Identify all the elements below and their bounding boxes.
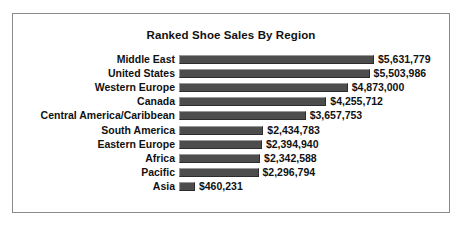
- bar-track: $5,503,986: [179, 66, 449, 80]
- bar: [179, 111, 306, 120]
- bar-chart-plot-area: Middle East$5,631,779United States$5,503…: [13, 52, 449, 202]
- chart-frame: Ranked Shoe Sales By Region Middle East$…: [12, 13, 450, 213]
- bar-category-label: Canada: [13, 96, 179, 107]
- bar-row: Central America/Caribbean$3,657,753: [13, 109, 449, 123]
- bar-category-label: Africa: [13, 153, 179, 164]
- bar-row: Canada$4,255,712: [13, 95, 449, 109]
- bar-track: $2,394,940: [179, 137, 449, 151]
- bar: [179, 126, 263, 135]
- bar: [179, 182, 195, 191]
- bar-value-label: $2,296,794: [259, 167, 316, 178]
- bar-value-label: $2,394,940: [262, 139, 319, 150]
- bar-row: Asia$460,231: [13, 180, 449, 194]
- bar-row: Pacific$2,296,794: [13, 166, 449, 180]
- bar-track: $2,434,783: [179, 123, 449, 137]
- bar-value-label: $4,873,000: [348, 82, 405, 93]
- bar-category-label: Eastern Europe: [13, 139, 179, 150]
- bar-track: $460,231: [179, 180, 449, 194]
- bar-value-label: $5,631,779: [374, 54, 431, 65]
- bar-row: South America$2,434,783: [13, 123, 449, 137]
- bar-value-label: $2,434,783: [263, 125, 320, 136]
- bar: [179, 83, 348, 92]
- bar-category-label: Pacific: [13, 167, 179, 178]
- bar: [179, 97, 326, 106]
- bar-value-label: $4,255,712: [326, 96, 383, 107]
- bar-category-label: Western Europe: [13, 82, 179, 93]
- bar-category-label: South America: [13, 125, 179, 136]
- bar-category-label: United States: [13, 68, 179, 79]
- bar: [179, 154, 260, 163]
- bar-track: $5,631,779: [179, 52, 449, 66]
- bar-row: Eastern Europe$2,394,940: [13, 137, 449, 151]
- bar: [179, 55, 374, 64]
- bar-row: Western Europe$4,873,000: [13, 80, 449, 94]
- bar-value-label: $460,231: [195, 181, 243, 192]
- bar-category-label: Middle East: [13, 54, 179, 65]
- bar-track: $3,657,753: [179, 109, 449, 123]
- bar-value-label: $5,503,986: [370, 68, 427, 79]
- bar-row: Africa$2,342,588: [13, 151, 449, 165]
- bar: [179, 140, 262, 149]
- bar-row: Middle East$5,631,779: [13, 52, 449, 66]
- bar-row: United States$5,503,986: [13, 66, 449, 80]
- bar-track: $4,255,712: [179, 95, 449, 109]
- bar-track: $4,873,000: [179, 80, 449, 94]
- bar-category-label: Central America/Caribbean: [13, 110, 179, 121]
- bar: [179, 69, 370, 78]
- bar-track: $2,296,794: [179, 166, 449, 180]
- bar: [179, 168, 259, 177]
- bar-category-label: Asia: [13, 181, 179, 192]
- bar-value-label: $3,657,753: [306, 110, 363, 121]
- bar-track: $2,342,588: [179, 151, 449, 165]
- bar-value-label: $2,342,588: [260, 153, 317, 164]
- chart-title: Ranked Shoe Sales By Region: [13, 29, 449, 41]
